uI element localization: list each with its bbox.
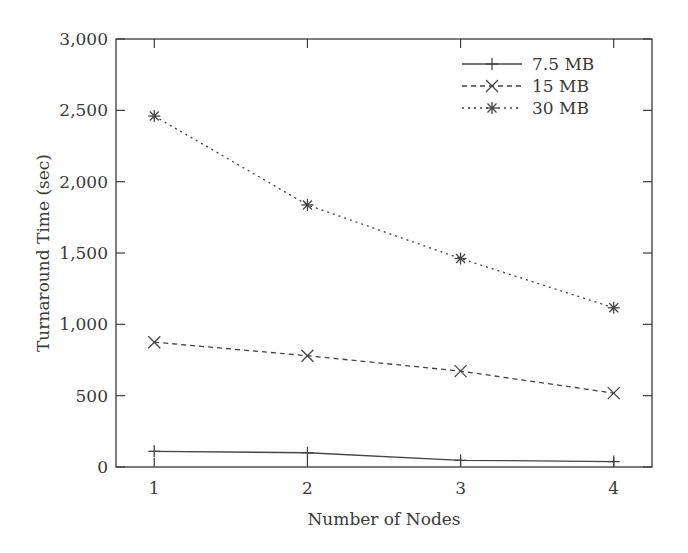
legend-item: 15 MB	[462, 76, 589, 96]
x-tick-label: 4	[608, 478, 619, 498]
x-tick-label: 1	[149, 478, 160, 498]
series-30-mb	[148, 110, 619, 314]
legend: 7.5 MB15 MB30 MB	[462, 54, 594, 118]
plus-marker-icon	[148, 445, 160, 457]
asterisk-marker-icon	[455, 253, 467, 265]
legend-label: 15 MB	[532, 76, 589, 96]
series-7-5-mb	[148, 445, 619, 467]
y-tick-label: 1,000	[59, 314, 108, 334]
y-tick-label: 1,500	[59, 243, 108, 263]
x-marker-icon	[608, 387, 620, 399]
plus-marker-icon	[301, 447, 313, 459]
x-axis-title: Number of Nodes	[307, 509, 460, 529]
asterisk-marker-icon	[148, 110, 160, 122]
plus-marker-icon	[608, 456, 620, 468]
legend-item: 7.5 MB	[462, 54, 594, 74]
series-line	[154, 116, 613, 308]
y-tick-label: 3,000	[59, 29, 108, 49]
y-axis-title: Turnaround Time (sec)	[33, 154, 53, 352]
y-tick-label: 2,000	[59, 172, 108, 192]
series-15-mb	[148, 336, 619, 399]
x-tick-label: 2	[302, 478, 313, 498]
y-tick-label: 0	[97, 457, 108, 477]
line-chart: 05001,0001,5002,0002,5003,000 1234 7.5 M…	[0, 0, 688, 553]
series-line	[154, 342, 613, 393]
x-tick-label: 3	[455, 478, 466, 498]
asterisk-marker-icon	[486, 102, 498, 114]
asterisk-marker-icon	[301, 199, 313, 211]
plus-marker-icon	[455, 454, 467, 466]
x-marker-icon	[486, 80, 498, 92]
x-marker-icon	[455, 365, 467, 377]
plus-marker-icon	[486, 58, 498, 70]
y-tick-label: 500	[76, 386, 108, 406]
asterisk-marker-icon	[608, 302, 620, 314]
y-axis: 05001,0001,5002,0002,5003,000	[59, 29, 652, 477]
legend-item: 30 MB	[462, 98, 589, 118]
legend-label: 30 MB	[532, 98, 589, 118]
series-line	[154, 451, 613, 461]
y-tick-label: 2,500	[59, 100, 108, 120]
legend-label: 7.5 MB	[532, 54, 594, 74]
series-layer	[148, 110, 619, 468]
